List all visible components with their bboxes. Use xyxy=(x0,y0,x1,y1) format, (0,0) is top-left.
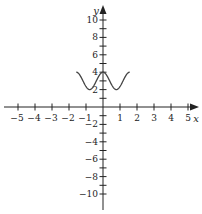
x-tick-label: −2 xyxy=(61,113,74,123)
y-tick-label: −6 xyxy=(85,154,99,164)
x-tick-label: 1 xyxy=(117,113,123,123)
x-tick-label: −3 xyxy=(44,113,58,123)
function-graph: x −5−4−3−2−112345 y −10−8−6−4−2246810 xyxy=(0,0,202,214)
y-tick-label: 10 xyxy=(87,15,99,25)
x-axis: x −5−4−3−2−112345 xyxy=(4,104,199,125)
y-tick-label: 8 xyxy=(92,32,98,42)
x-tick-label: −4 xyxy=(27,113,41,123)
y-tick-label: −10 xyxy=(79,189,98,199)
x-tick-label: −5 xyxy=(10,113,24,123)
y-tick-label: 6 xyxy=(92,50,98,60)
y-tick-label: −4 xyxy=(85,137,99,147)
x-ticks: −5−4−3−2−112345 xyxy=(10,104,191,124)
y-tick-label: 4 xyxy=(92,67,98,77)
x-axis-label: x xyxy=(193,113,199,124)
y-tick-label: −2 xyxy=(85,119,98,129)
x-tick-label: 3 xyxy=(151,113,157,123)
y-tick-label: −8 xyxy=(85,172,99,182)
x-tick-label: 5 xyxy=(185,113,191,123)
x-axis-arrow-icon xyxy=(190,104,199,111)
x-tick-label: 4 xyxy=(168,113,174,123)
x-tick-label: 2 xyxy=(134,113,140,123)
y-axis-arrow-icon xyxy=(100,5,107,14)
